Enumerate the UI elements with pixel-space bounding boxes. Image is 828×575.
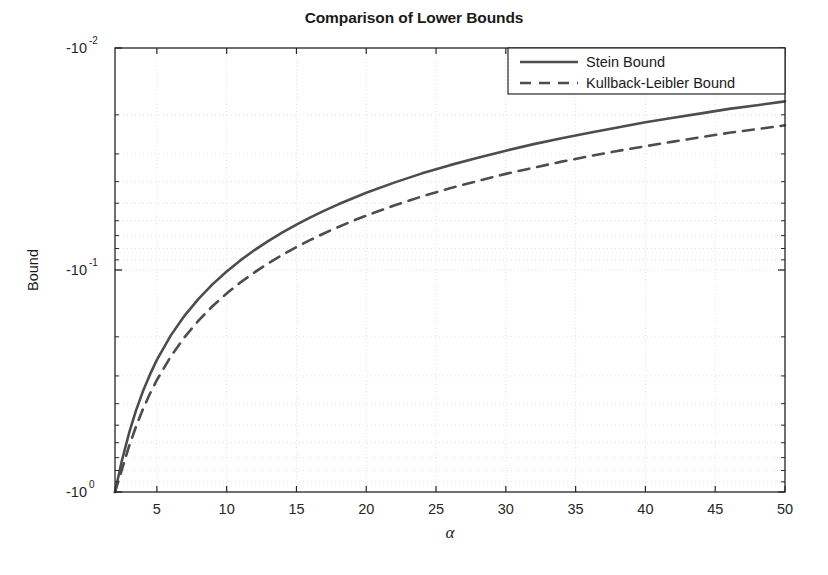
x-tick-label: 5 [153, 501, 161, 517]
svg-text:-2: -2 [89, 35, 98, 46]
chart-legend[interactable]: Stein BoundKullback-Leibler Bound [508, 48, 785, 94]
series-layer [115, 101, 785, 492]
y-tick-label: -100 [66, 479, 95, 500]
series-line-1 [115, 125, 785, 492]
svg-text:-10: -10 [66, 40, 87, 56]
x-tick-label: 50 [777, 501, 793, 517]
tick-label-layer: 5101520253035404550-100-10-1-10-2 [66, 35, 793, 517]
figure-container: Comparison of Lower Bounds 5101520253035… [0, 0, 828, 575]
series-line-0 [115, 101, 785, 492]
legend-label-0[interactable]: Stein Bound [586, 54, 665, 70]
x-tick-label: 20 [358, 501, 374, 517]
svg-text:-1: -1 [89, 257, 98, 268]
svg-text:-10: -10 [66, 484, 87, 500]
svg-text:0: 0 [89, 479, 95, 490]
x-tick-label: 40 [637, 501, 653, 517]
x-tick-label: 25 [428, 501, 444, 517]
legend-label-1[interactable]: Kullback-Leibler Bound [586, 75, 735, 91]
x-tick-label: 10 [219, 501, 235, 517]
x-tick-label: 30 [498, 501, 514, 517]
y-tick-label: -10-2 [66, 35, 98, 56]
x-axis-title: α [446, 523, 456, 542]
x-tick-label: 35 [568, 501, 584, 517]
y-tick-label: -10-1 [66, 257, 98, 278]
x-tick-label: 45 [707, 501, 723, 517]
y-axis-title: Bound [25, 249, 41, 291]
x-tick-label: 15 [288, 501, 304, 517]
axis-title-layer: αBound [25, 249, 456, 542]
grid-layer [115, 48, 785, 492]
svg-text:-10: -10 [66, 262, 87, 278]
chart-canvas: 5101520253035404550-100-10-1-10-2 Stein … [0, 0, 828, 575]
